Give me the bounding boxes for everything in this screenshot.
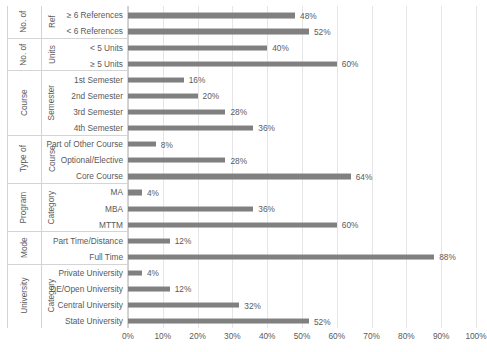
bar-value-label: 8% <box>161 140 173 148</box>
bar-value-label: 32% <box>244 301 261 309</box>
bar[interactable] <box>128 158 225 163</box>
x-axis-tick-labels: 0%10%20%30%40%50%60%70%80%90%100% <box>128 330 476 350</box>
bar-value-label: 28% <box>230 108 247 116</box>
category-label: 3rd Semester <box>0 108 123 116</box>
bar-container: 52% <box>128 312 487 331</box>
x-tick-label: 40% <box>259 332 276 340</box>
bar-row: State University52% <box>0 312 487 331</box>
bar[interactable] <box>128 61 337 66</box>
category-label: < 6 References <box>0 27 123 35</box>
bar-rows: ≥ 6 References48%< 6 References52%< 5 Un… <box>0 6 487 328</box>
category-label: Central University <box>0 301 123 309</box>
x-tick-label: 10% <box>154 332 171 340</box>
category-label: < 5 Units <box>0 44 123 52</box>
horizontal-bar-chart: No. ofRefNo. ofUnitsCourseSemesterType o… <box>0 0 487 352</box>
bar-value-label: 88% <box>439 253 456 261</box>
bar-value-label: 36% <box>258 205 275 213</box>
category-label: Part Time/Distance <box>0 237 123 245</box>
bar[interactable] <box>128 77 184 82</box>
bar[interactable] <box>128 142 156 147</box>
bar[interactable] <box>128 287 170 292</box>
bar[interactable] <box>128 319 309 324</box>
bar-value-label: 20% <box>203 92 220 100</box>
bar[interactable] <box>128 13 295 18</box>
bar[interactable] <box>128 109 225 114</box>
bar[interactable] <box>128 190 142 195</box>
bar-value-label: 60% <box>342 60 359 68</box>
bar-value-label: 48% <box>300 11 317 19</box>
category-label: DE/Open University <box>0 285 123 293</box>
bar[interactable] <box>128 270 142 275</box>
category-label: ≥ 6 References <box>0 11 123 19</box>
x-tick-label: 60% <box>328 332 345 340</box>
category-label: Optional/Elective <box>0 156 123 164</box>
bar[interactable] <box>128 254 434 259</box>
bar-value-label: 52% <box>314 27 331 35</box>
x-tick-label: 90% <box>433 332 450 340</box>
category-label: 1st Semester <box>0 76 123 84</box>
bar-value-label: 16% <box>189 76 206 84</box>
category-label: ≥ 5 Units <box>0 60 123 68</box>
bar-value-label: 28% <box>230 156 247 164</box>
bar-value-label: 12% <box>175 237 192 245</box>
x-tick-label: 70% <box>363 332 380 340</box>
bar-value-label: 36% <box>258 124 275 132</box>
bar[interactable] <box>128 303 239 308</box>
x-tick-label: 80% <box>398 332 415 340</box>
bar[interactable] <box>128 126 253 131</box>
category-label: State University <box>0 317 123 325</box>
bar-value-label: 4% <box>147 188 159 196</box>
category-label: MBA <box>0 205 123 213</box>
category-label: 4th Semester <box>0 124 123 132</box>
category-label: Part of Other Course <box>0 140 123 148</box>
bar-value-label: 4% <box>147 269 159 277</box>
category-label: Core Course <box>0 172 123 180</box>
x-tick-label: 50% <box>294 332 311 340</box>
category-label: MA <box>0 188 123 196</box>
bar-value-label: 64% <box>356 172 373 180</box>
x-tick-label: 20% <box>189 332 206 340</box>
bar[interactable] <box>128 29 309 34</box>
bar[interactable] <box>128 45 267 50</box>
bar-value-label: 60% <box>342 221 359 229</box>
bar-value-label: 12% <box>175 285 192 293</box>
x-tick-label: 30% <box>224 332 241 340</box>
bar[interactable] <box>128 206 253 211</box>
x-tick-label: 100% <box>465 332 486 340</box>
bar-value-label: 52% <box>314 317 331 325</box>
category-label: Private University <box>0 269 123 277</box>
category-label: 2nd Semester <box>0 92 123 100</box>
bar[interactable] <box>128 174 351 179</box>
bar[interactable] <box>128 93 198 98</box>
bar[interactable] <box>128 238 170 243</box>
category-label: Full Time <box>0 253 123 261</box>
bar[interactable] <box>128 222 337 227</box>
bar-value-label: 40% <box>272 44 289 52</box>
category-label: MTTM <box>0 221 123 229</box>
x-tick-label: 0% <box>122 332 134 340</box>
